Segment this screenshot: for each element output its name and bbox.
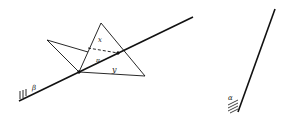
label-alpha: α: [228, 94, 233, 102]
left-diagram: [19, 17, 193, 101]
right-diagram: [228, 9, 275, 113]
label-x: x: [98, 36, 102, 44]
intersection-point: [117, 52, 119, 54]
intersection-point: [78, 71, 80, 73]
triangle-left: [47, 40, 88, 72]
label-beta: β: [31, 84, 36, 92]
diagram-canvas: β x π y α: [0, 0, 286, 123]
hidden-edge: [88, 48, 118, 53]
label-y: y: [111, 65, 117, 74]
plane-alpha-line: [238, 9, 275, 112]
